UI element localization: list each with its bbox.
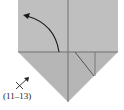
step-reference-label: (11–13) xyxy=(3,91,31,101)
